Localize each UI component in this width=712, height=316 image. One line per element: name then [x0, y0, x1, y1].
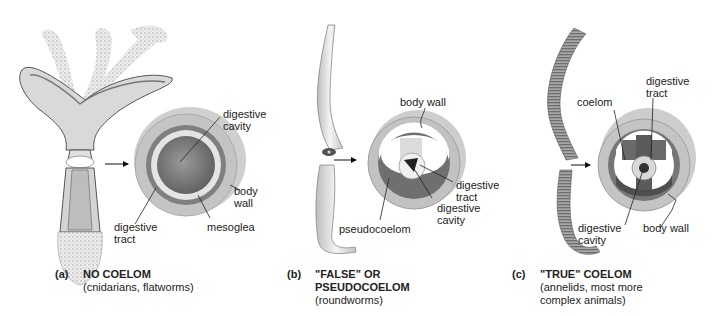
caption-subtitle-a: (cnidarians, flatworms) [83, 281, 194, 294]
label-body-wall-c: body wall [643, 222, 689, 234]
label-mesoglea-a: mesoglea [207, 221, 255, 233]
label-body-wall-b: body wall [400, 96, 446, 108]
label-coelom-c: coelom [577, 96, 612, 108]
label-digestive-tract-b: digestive tract [456, 179, 499, 203]
caption-title-b: "FALSE" OR PSEUDOCOELOM [315, 268, 410, 294]
caption-subtitle-c: (annelids, most more complex animals) [540, 281, 643, 307]
label-digestive-tract-c: digestive tract [646, 75, 689, 99]
label-digestive-cavity-b: digestive cavity [437, 202, 480, 226]
caption-title-c: "TRUE" COELOM [540, 268, 632, 281]
coelom-diagram: digestive cavity body wall digestive tra… [0, 0, 712, 316]
label-pseudocoelom-b: pseudocoelom [339, 223, 411, 235]
label-body-wall-a: body wall [234, 185, 258, 209]
caption-letter-c: (c) [512, 268, 525, 281]
caption-panel-a: (a) NO COELOM (cnidarians, flatworms) [55, 268, 255, 308]
earthworm-illustration [548, 28, 600, 254]
caption-title-a: NO COELOM [83, 268, 151, 281]
roundworm-illustration [316, 25, 356, 254]
caption-letter-b: (b) [287, 268, 301, 281]
caption-letter-a: (a) [55, 268, 68, 281]
cross-section-true-coelom [598, 98, 696, 228]
caption-panel-b: (b) "FALSE" OR PSEUDOCOELOM (roundworms) [287, 268, 487, 313]
label-digestive-cavity-c: digestive cavity [578, 222, 621, 246]
label-digestive-tract-a: digestive tract [114, 221, 157, 245]
caption-panel-c: (c) "TRUE" COELOM (annelids, most more c… [512, 268, 712, 313]
caption-subtitle-b: (roundworms) [315, 294, 383, 307]
label-digestive-cavity-a: digestive cavity [223, 108, 266, 132]
